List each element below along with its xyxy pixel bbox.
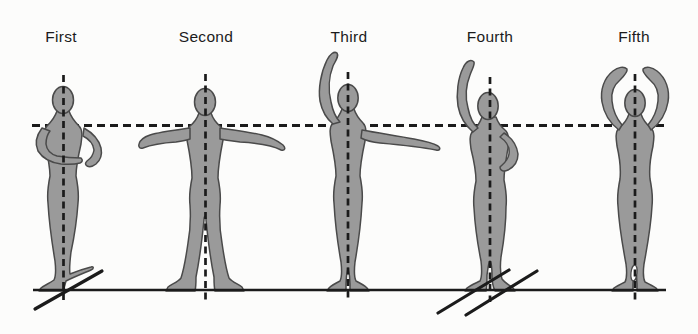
- ballet-figure-second-position-icon: [139, 89, 285, 292]
- position-label-first: First: [45, 28, 77, 46]
- ballet-figure-third-position-icon: [319, 52, 439, 291]
- diagram-canvas: [0, 0, 698, 334]
- ballet-positions-diagram: First Second Third Fourth Fifth: [0, 0, 698, 334]
- position-label-third: Third: [331, 28, 368, 46]
- ballet-figure-first-position-icon: [36, 87, 101, 292]
- ballet-figure-fourth-position-icon: [457, 61, 518, 291]
- position-label-fourth: Fourth: [467, 28, 514, 46]
- position-label-fifth: Fifth: [618, 28, 650, 46]
- position-label-second: Second: [179, 28, 233, 46]
